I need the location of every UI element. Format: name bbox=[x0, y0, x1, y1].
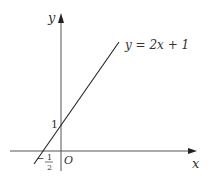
x-axis-label: x bbox=[192, 156, 200, 171]
x-axis-arrow-icon bbox=[188, 148, 197, 154]
equation-label: y = 2x + 1 bbox=[124, 38, 189, 52]
x-intercept-denominator: 2 bbox=[47, 163, 52, 172]
y-intercept-label: 1 bbox=[51, 118, 58, 131]
x-intercept-numerator: 1 bbox=[47, 153, 52, 162]
line-y-2x-plus-1 bbox=[34, 42, 119, 164]
x-intercept-sign: − bbox=[36, 153, 44, 164]
graph: y x O y = 2x + 1 1 − 1 2 bbox=[0, 0, 213, 181]
equation-text: y = 2x + 1 bbox=[124, 38, 189, 52]
y-axis-label: y bbox=[47, 10, 56, 25]
origin-label: O bbox=[64, 154, 73, 167]
y-axis-arrow-icon bbox=[58, 13, 64, 23]
